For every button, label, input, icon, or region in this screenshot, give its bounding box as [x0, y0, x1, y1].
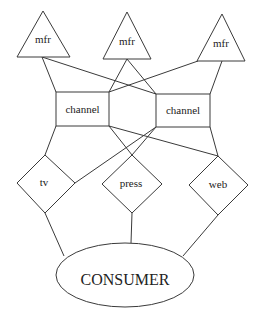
media-node-web: web — [189, 156, 248, 215]
consumer-node: CONSUMER — [56, 243, 194, 307]
mfr-label: mfr — [35, 33, 51, 45]
media-label: web — [209, 178, 228, 190]
media-label: tv — [40, 176, 49, 188]
channel-label: channel — [65, 103, 99, 115]
edge-ch1-press — [109, 126, 132, 155]
edge-ch2-web — [210, 127, 218, 156]
consumer-label: CONSUMER — [81, 271, 170, 288]
edge-press-consumer — [131, 213, 132, 243]
edge-mfr3-ch1 — [109, 61, 198, 92]
edge-mfr1-ch1 — [42, 57, 56, 92]
channel-node-2: channel — [156, 94, 210, 127]
media-node-tv: tv — [17, 155, 75, 213]
edge-ch1-web — [109, 126, 218, 156]
edge-mfr2-ch2 — [127, 59, 156, 94]
channel-label: channel — [166, 104, 200, 116]
channel-node-1: channel — [56, 92, 109, 126]
media-label: press — [120, 177, 143, 189]
mfr-label: mfr — [119, 35, 135, 47]
mfr-label: mfr — [213, 37, 229, 49]
edge-tv-consumer — [45, 213, 64, 256]
mfr-node-2: mfr — [103, 12, 151, 59]
edge-ch1-tv — [45, 126, 56, 155]
mfr-node-1: mfr — [17, 11, 70, 57]
supply-chain-diagram: mfr mfr mfr channel channel tv press web… — [0, 0, 263, 316]
edge-mfr3-ch2 — [210, 61, 222, 94]
edge-web-consumer — [183, 215, 218, 256]
edge-mfr1-ch2 — [42, 57, 156, 94]
media-node-press: press — [102, 155, 162, 213]
mfr-node-3: mfr — [197, 14, 245, 61]
